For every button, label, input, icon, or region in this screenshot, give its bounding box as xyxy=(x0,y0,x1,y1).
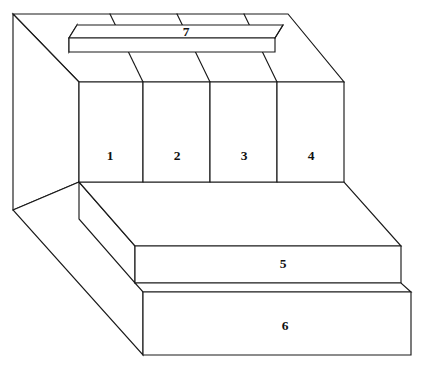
bar-7-group xyxy=(69,25,283,52)
base-6-group xyxy=(135,283,411,355)
bar-7-top-face xyxy=(69,25,283,38)
label-bar-7: 7 xyxy=(183,24,190,39)
label-panel-3: 3 xyxy=(241,148,248,163)
panel-2-front-face xyxy=(143,82,210,182)
base-6-front-face xyxy=(143,292,411,355)
label-panel-2: 2 xyxy=(174,148,181,163)
base-6-top-face xyxy=(135,283,411,292)
slab-5-front-face xyxy=(135,246,401,283)
bar-7-front-face xyxy=(69,38,275,52)
slab-5-group xyxy=(79,182,401,283)
panel-1-front-face xyxy=(79,82,143,182)
panel-4-front-face xyxy=(277,82,344,182)
slab-5-top-face xyxy=(79,182,401,246)
panels-group xyxy=(79,82,344,182)
label-panel-1: 1 xyxy=(107,148,114,163)
label-slab-5: 5 xyxy=(280,256,287,271)
technical-diagram: 1 2 3 4 5 6 7 xyxy=(0,0,422,368)
label-panel-4: 4 xyxy=(308,148,315,163)
isometric-structure-svg: 1 2 3 4 5 6 7 xyxy=(0,0,422,368)
label-base-6: 6 xyxy=(282,318,289,333)
panel-3-front-face xyxy=(210,82,277,182)
